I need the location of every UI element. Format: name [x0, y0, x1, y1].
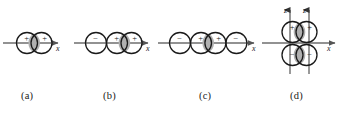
- panel-d-sign-bottom-left: −: [290, 49, 295, 59]
- panel-d-x-axis-label: x: [326, 44, 331, 53]
- panel-a-caption: (a): [21, 90, 33, 101]
- panel-c-sign-3: +: [216, 33, 221, 43]
- panel-b-sign-left: −: [93, 33, 98, 43]
- panel-c-overlap-lens: [202, 34, 214, 53]
- panel-b-x-axis-label: x: [145, 44, 150, 53]
- orbital-overlap-figure: x + + x − + + x: [0, 0, 337, 117]
- panel-b: x − + +: [74, 33, 150, 54]
- panel-c-sign-4: −: [234, 33, 239, 43]
- panel-c-x-axis-label: x: [251, 44, 256, 53]
- panel-a-sign-left: +: [24, 33, 29, 43]
- panel-a-overlap-lens: [28, 34, 40, 53]
- panel-b-sign-right: +: [132, 33, 137, 43]
- panel-c: x − + + −: [158, 33, 256, 54]
- panel-d-sign-bottom-right: −: [307, 49, 312, 59]
- panel-b-caption: (b): [103, 90, 116, 101]
- panel-d: z z x + + − −: [262, 6, 335, 74]
- panel-d-z-axis-right-label: z: [302, 6, 307, 15]
- panel-c-sign-2: +: [198, 33, 203, 43]
- panel-a-sign-right: +: [42, 33, 47, 43]
- panel-d-caption: (d): [290, 90, 303, 101]
- panel-d-sign-top-right: +: [307, 22, 312, 32]
- panel-a-x-axis-label: x: [55, 44, 60, 53]
- panel-b-sign-center: +: [114, 33, 119, 43]
- panel-a: x + +: [3, 33, 60, 54]
- panel-c-caption: (c): [199, 90, 211, 101]
- panel-d-sign-top-left: +: [290, 22, 295, 32]
- panel-d-z-axis-left-label: z: [283, 6, 288, 15]
- figure-canvas: x + + x − + + x: [0, 0, 337, 117]
- panel-c-sign-1: −: [177, 33, 182, 43]
